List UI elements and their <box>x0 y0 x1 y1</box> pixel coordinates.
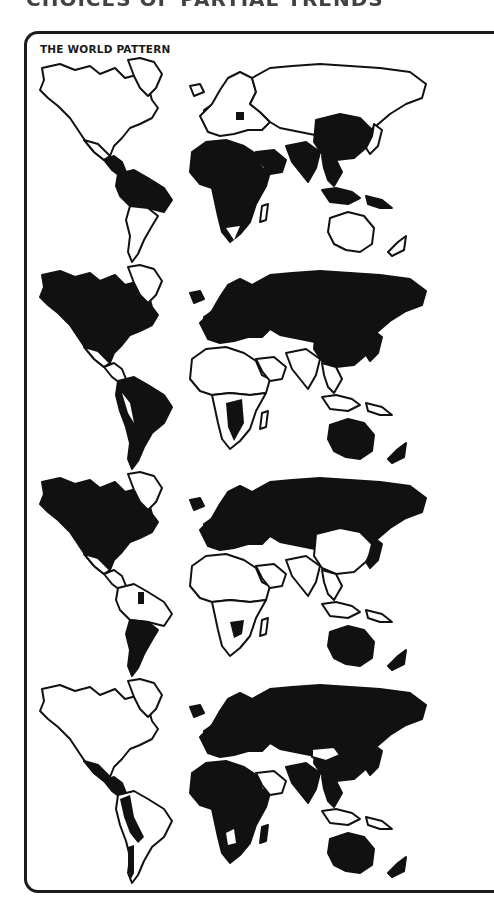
australia <box>328 419 374 459</box>
world-map-panel-1 <box>30 56 465 268</box>
china <box>314 321 372 367</box>
south-america <box>116 377 172 469</box>
australia <box>328 626 374 666</box>
new-zealand <box>388 650 406 670</box>
world-map-panel-4 <box>30 677 465 889</box>
indonesia <box>322 188 360 204</box>
clipped-page-heading: CHOICES OF PARTIAL TRENDS <box>26 0 384 3</box>
indonesia <box>322 809 360 825</box>
new-zealand <box>388 236 406 256</box>
southern-south-america <box>126 206 158 262</box>
world-map-1 <box>30 56 465 268</box>
southern-africa <box>212 807 266 863</box>
new-zealand <box>388 857 406 877</box>
world-map-2 <box>30 263 465 475</box>
china <box>314 114 372 160</box>
argentina <box>126 620 158 676</box>
south-asia <box>286 142 320 182</box>
northern-south-america <box>116 584 172 626</box>
australia <box>328 212 374 252</box>
northern-south-america <box>116 170 172 212</box>
north-africa <box>190 347 270 395</box>
indonesia <box>322 602 360 618</box>
north-africa <box>190 554 270 602</box>
world-map-panel-2 <box>30 263 465 475</box>
world-map-3 <box>30 470 465 682</box>
china <box>314 528 372 574</box>
new-zealand <box>388 443 406 463</box>
south-asia <box>286 349 320 389</box>
sub-saharan-africa <box>212 186 266 242</box>
north-africa <box>190 761 270 809</box>
world-map-4 <box>30 677 465 889</box>
south-asia <box>286 763 320 803</box>
south-asia <box>286 556 320 596</box>
australia <box>328 833 374 873</box>
indonesia <box>322 395 360 411</box>
north-africa <box>190 140 270 188</box>
figure-title: THE WORLD PATTERN <box>40 43 171 55</box>
world-map-panel-3 <box>30 470 465 682</box>
